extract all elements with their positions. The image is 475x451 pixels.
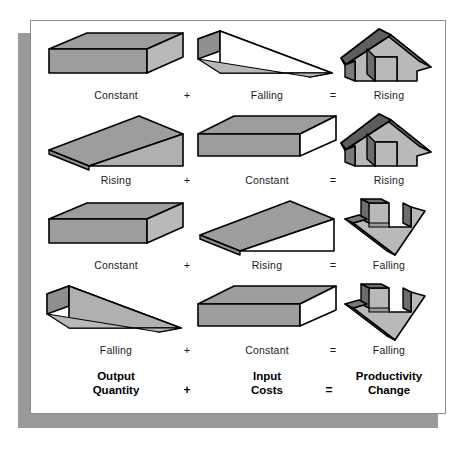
row1-result-cell: Rising xyxy=(339,27,439,112)
box-white-front-shape xyxy=(194,112,340,176)
arrow-up-shape xyxy=(339,27,439,91)
row4-output-label: Falling xyxy=(43,344,189,356)
footer-output-label: Output Quantity xyxy=(43,369,189,397)
row3-result-cell: Falling xyxy=(339,197,439,282)
footer-output-line1: Output xyxy=(43,369,189,383)
box-gray-front-shape xyxy=(43,27,189,91)
footer-result-label: Productivity Change xyxy=(335,369,443,397)
wedge-rising-shape xyxy=(194,197,340,261)
row4-result-label: Falling xyxy=(339,344,439,356)
row4-result-cell: Falling xyxy=(339,282,439,367)
row3-input-cell: Rising xyxy=(194,197,340,282)
wedge-falling-shape xyxy=(43,282,189,346)
row4-output-cell: Falling xyxy=(43,282,189,367)
row3-input-label: Rising xyxy=(194,259,340,271)
wedge-rising-shape xyxy=(43,112,189,176)
equation-rows: Constant + Falling xyxy=(39,27,439,367)
wedge-falling-shape xyxy=(194,27,340,91)
row2-input-cell: Constant xyxy=(194,112,340,197)
row1-result-label: Rising xyxy=(339,89,439,101)
footer-result-line1: Productivity xyxy=(335,369,443,383)
footer-legend: Output Quantity + Input Costs = Producti… xyxy=(39,369,439,409)
arrow-up-shape xyxy=(339,112,439,176)
footer-input-line2: Costs xyxy=(194,383,340,397)
equation-row: Constant + Falling xyxy=(39,27,439,112)
row2-input-label: Constant xyxy=(194,174,340,186)
footer-output-line2: Quantity xyxy=(43,383,189,397)
diagram-panel-inner: Constant + Falling xyxy=(31,21,445,413)
row1-input-label: Falling xyxy=(194,89,340,101)
equation-row: Falling + Constant = xyxy=(39,282,439,367)
box-white-front-shape xyxy=(194,282,340,346)
row1-input-cell: Falling xyxy=(194,27,340,112)
diagram-panel: Constant + Falling xyxy=(30,20,446,414)
row2-result-label: Rising xyxy=(339,174,439,186)
row4-input-cell: Constant xyxy=(194,282,340,367)
equation-row: Rising + Constant = xyxy=(39,112,439,197)
row2-output-cell: Rising xyxy=(43,112,189,197)
arrow-down-shape xyxy=(339,197,439,261)
row2-result-cell: Rising xyxy=(339,112,439,197)
equation-row: Constant + Rising = xyxy=(39,197,439,282)
footer-input-line1: Input xyxy=(194,369,340,383)
row2-output-label: Rising xyxy=(43,174,189,186)
row3-result-label: Falling xyxy=(339,259,439,271)
row1-output-label: Constant xyxy=(43,89,189,101)
row1-output-cell: Constant xyxy=(43,27,189,112)
row3-output-cell: Constant xyxy=(43,197,189,282)
box-gray-front-shape xyxy=(43,197,189,261)
row4-input-label: Constant xyxy=(194,344,340,356)
arrow-down-shape xyxy=(339,282,439,346)
footer-result-line2: Change xyxy=(335,383,443,397)
footer-input-label: Input Costs xyxy=(194,369,340,397)
row3-output-label: Constant xyxy=(43,259,189,271)
productivity-change-diagram: Constant + Falling xyxy=(0,0,475,451)
